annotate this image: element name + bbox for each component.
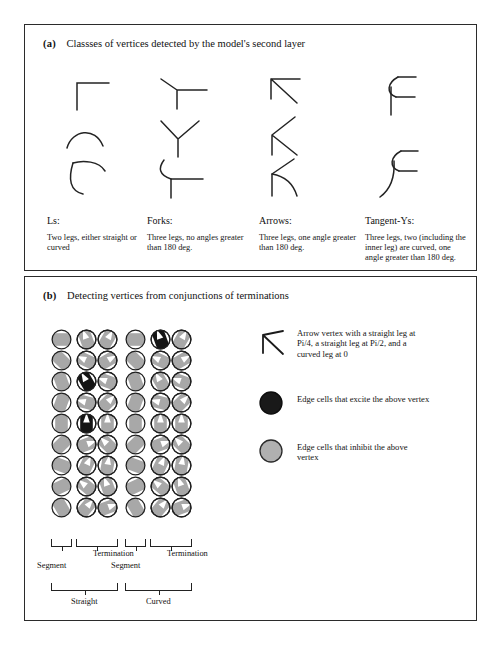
edge-cell <box>150 329 171 350</box>
vertex-title-ls: Ls: <box>47 215 60 226</box>
edge-cell <box>171 434 192 455</box>
edge-cell <box>76 350 97 371</box>
glyph-arrow-up-left <box>259 73 363 115</box>
glyph-arc-open-down <box>47 117 151 159</box>
edge-cell <box>171 329 192 350</box>
bracket-labels: SegmentTerminationSegmentTerminationStra… <box>51 539 261 607</box>
vertex-column-tangent-ys: Tangent-Ys: Three legs, two (including t… <box>365 25 469 272</box>
edge-cell <box>51 455 72 476</box>
bracket-label: Straight <box>71 597 98 606</box>
bracket <box>125 583 192 594</box>
bracket <box>125 539 146 550</box>
edge-cell <box>51 497 72 518</box>
glyph-fork-T-oblique <box>147 73 251 115</box>
edge-cell <box>76 497 97 518</box>
edge-cell <box>171 350 192 371</box>
legend-text-arrow-vertex: Arrow vertex with a straight leg at Pi/4… <box>297 328 430 359</box>
edge-cell <box>125 455 146 476</box>
edge-cell <box>51 371 72 392</box>
edge-cell <box>97 350 118 371</box>
glyph-fork-curved-T <box>147 158 251 200</box>
edge-cell <box>125 392 146 413</box>
edge-cell <box>171 476 192 497</box>
edge-cell <box>150 497 171 518</box>
edge-cell <box>51 392 72 413</box>
edge-cell <box>51 329 72 350</box>
edge-cell <box>150 476 171 497</box>
edge-cell <box>150 455 171 476</box>
arrow-vertex-icon <box>257 329 291 361</box>
panel-b-tag: (b) <box>43 290 56 301</box>
edge-cell <box>125 413 146 434</box>
edge-cell <box>97 392 118 413</box>
bracket-label: Termination <box>93 549 134 558</box>
edge-cell <box>150 350 171 371</box>
filled-gray-circle-icon <box>257 437 285 465</box>
vertex-column-ls: Ls: Two legs, either straight or curved <box>47 25 151 272</box>
edge-cell <box>125 329 146 350</box>
vertex-desc-tangent-ys: Three legs, two (including the inner leg… <box>365 233 469 264</box>
edge-cell <box>51 434 72 455</box>
vertex-title-arrows: Arrows: <box>259 215 292 226</box>
edge-cell <box>51 476 72 497</box>
vertex-column-forks: Forks: Three legs, no angles greater tha… <box>147 25 251 272</box>
panel-a: (a) Classses of vertices detected by the… <box>24 24 477 271</box>
edge-cell <box>171 392 192 413</box>
vertex-title-forks: Forks: <box>147 215 173 226</box>
edge-cell <box>76 392 97 413</box>
edge-cell <box>51 350 72 371</box>
glyph-tangent-y-curved-stem <box>365 147 469 189</box>
legend-text-excite: Edge cells that excite the above vertex <box>297 394 430 404</box>
edge-cell <box>97 455 118 476</box>
edge-cell <box>76 371 97 392</box>
edge-cell <box>171 497 192 518</box>
running-head <box>0 0 501 9</box>
panel-b-heading: (b) Detecting vertices from conjunctions… <box>43 290 289 301</box>
vertex-desc-ls: Two legs, either straight or curved <box>47 233 147 253</box>
vertex-column-arrows: Arrows: Three legs, one angle greater th… <box>259 25 363 272</box>
edge-cell <box>97 413 118 434</box>
edge-cell <box>76 434 97 455</box>
edge-cell <box>125 476 146 497</box>
edge-cell <box>97 329 118 350</box>
bracket-label: Termination <box>167 549 208 558</box>
bracket-label: Segment <box>37 561 66 570</box>
panel-b: (b) Detecting vertices from conjunctions… <box>24 276 477 621</box>
legend-text-inhibit: Edge cells that inhibit the above vertex <box>297 442 430 463</box>
edge-cell <box>76 329 97 350</box>
vertex-desc-arrows: Three legs, one angle greater than 180 d… <box>259 233 359 253</box>
edge-cell <box>76 455 97 476</box>
edge-cell <box>97 497 118 518</box>
edge-cell <box>150 371 171 392</box>
glyph-arrow-K-left <box>259 115 363 157</box>
edge-cell <box>51 413 72 434</box>
legend: Arrow vertex with a straight leg at Pi/4… <box>257 329 469 479</box>
edge-cell <box>97 476 118 497</box>
bracket-label: Segment <box>111 561 140 570</box>
glyph-arrow-K-curved <box>259 158 363 200</box>
filled-dark-circle-icon <box>257 389 285 417</box>
edge-cell <box>125 497 146 518</box>
glyph-curved-L <box>47 158 151 200</box>
edge-cell <box>125 350 146 371</box>
glyph-corner-right-angle <box>47 73 151 115</box>
figure-root: (a) Classses of vertices detected by the… <box>0 0 501 645</box>
panel-b-heading-text: Detecting vertices from conjunctions of … <box>67 290 289 301</box>
edge-cell-grid <box>51 329 251 534</box>
glyph-tangent-y-straight-stem <box>365 71 469 113</box>
edge-cell <box>171 455 192 476</box>
edge-cell <box>97 371 118 392</box>
edge-cell <box>76 413 97 434</box>
edge-cell <box>125 434 146 455</box>
bracket <box>51 539 72 550</box>
edge-cell <box>171 371 192 392</box>
edge-cell <box>125 371 146 392</box>
bracket-label: Curved <box>146 597 171 606</box>
vertex-desc-forks: Three legs, no angles greater than 180 d… <box>147 233 247 253</box>
edge-cell <box>171 413 192 434</box>
glyph-fork-Y <box>147 117 251 159</box>
bracket <box>51 583 118 594</box>
edge-cell <box>97 434 118 455</box>
vertex-title-tangent-ys: Tangent-Ys: <box>365 215 414 226</box>
edge-cell <box>150 413 171 434</box>
